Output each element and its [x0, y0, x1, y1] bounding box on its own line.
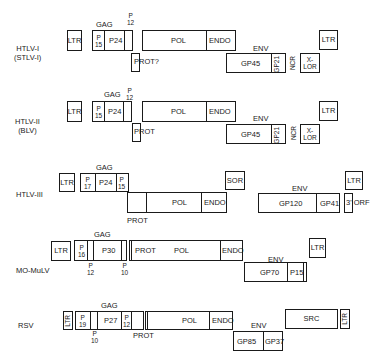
divider: [220, 241, 221, 260]
p10-n: 10: [121, 269, 128, 276]
ltr-3-box: LTR: [340, 309, 350, 329]
divider: [121, 312, 122, 329]
env-label: ENV: [253, 45, 268, 53]
p10-label: P 10: [121, 262, 128, 276]
gag-label: GAG: [94, 231, 111, 239]
divider: [104, 31, 105, 50]
p16-n: 16: [78, 251, 85, 258]
p12-label: P 12: [87, 262, 94, 276]
p12-p: P: [123, 314, 130, 321]
divider: [209, 312, 210, 329]
p19-label: P 19: [79, 314, 86, 328]
ltr-3-box: LTR: [319, 30, 338, 50]
ltr-5-box: LTR: [67, 30, 82, 51]
gag-label: GAG: [104, 91, 121, 99]
divider: [206, 31, 207, 50]
pol-box: POL ENDO: [127, 192, 227, 213]
divider: [97, 312, 98, 329]
gp21-label: GP21: [274, 127, 281, 144]
ncr-label: NCR: [291, 126, 298, 140]
gag-label: GAG: [96, 164, 113, 172]
divider: [90, 312, 91, 329]
divider: [287, 263, 288, 281]
p19-p: P: [79, 314, 86, 321]
p15-label: P 15: [118, 176, 125, 190]
pol-box: POL ENDO: [145, 311, 233, 330]
divider: [95, 174, 96, 191]
gp45-label: GP45: [241, 131, 260, 139]
ltr-5-box: LTR: [63, 311, 73, 330]
ltr-3-box: LTR: [319, 101, 338, 121]
gag-box: P 15 P24: [92, 101, 132, 122]
p16-label: P 16: [78, 244, 85, 258]
gp21-label: GP21: [274, 56, 281, 73]
sor-box: SOR: [225, 171, 245, 190]
ltr-3-label: LTR: [342, 313, 349, 325]
p12-label: P 12: [123, 314, 130, 328]
gag-box: P 19 P27 P 12: [75, 311, 144, 330]
p10-n: 10: [91, 337, 98, 344]
gp120-label: GP120: [279, 200, 302, 208]
endo-label: ENDO: [209, 37, 231, 45]
p19-n: 19: [79, 321, 86, 328]
env-label: ENV: [253, 115, 268, 123]
virus-name-htlv-2: HTLV-II (BLV): [15, 117, 40, 136]
p12-label: P 12: [127, 12, 134, 26]
gag-box: P 17 P24 P 15: [80, 173, 129, 192]
xlor-box: X- LOR: [300, 124, 320, 144]
p30-label: P30: [102, 247, 115, 255]
virus-label: HTLV-I: [14, 44, 41, 53]
p17-n: 17: [84, 183, 91, 190]
divider: [146, 193, 147, 212]
virus-name-htlv-1: HTLV-I (STLV-I): [14, 44, 41, 63]
xlor-a: X-: [303, 56, 316, 63]
divider: [206, 102, 207, 121]
gp45-label: GP45: [241, 60, 260, 68]
divider: [121, 241, 122, 260]
p15-label: P 15: [95, 34, 102, 48]
ltr-5-label: LTR: [65, 315, 72, 327]
divider: [131, 312, 132, 329]
divider: [87, 241, 88, 260]
src-box: SRC: [285, 309, 338, 329]
prot-label: PROT?: [134, 58, 159, 66]
divider: [124, 31, 125, 50]
xlor-label: X- LOR: [303, 127, 316, 141]
p15-label: P 15: [95, 105, 102, 119]
pol-label: POL: [171, 37, 186, 45]
divider: [123, 102, 124, 121]
pol-label: POL: [182, 317, 197, 325]
divider: [316, 194, 317, 212]
gp70-label: GP70: [260, 269, 279, 277]
pol-box: POL ENDO: [142, 101, 236, 122]
p27-label: P27: [104, 317, 117, 325]
pol-label: POL: [171, 108, 186, 116]
p10-p: P: [121, 262, 128, 269]
divider: [131, 241, 132, 260]
p12-n: 12: [87, 269, 94, 276]
env-box: GP85 GP37: [233, 331, 283, 351]
p12-n: 12: [123, 321, 130, 328]
ncr-label: NCR: [290, 56, 297, 70]
p12-p: P: [87, 262, 94, 269]
env-box: GP45 GP21: [226, 53, 286, 73]
divider: [263, 332, 264, 350]
env-box: GP120 GP41: [258, 193, 340, 213]
prot-label: PROT: [127, 217, 148, 225]
xlor-b: LOR: [303, 63, 316, 70]
gag-box: P 16 P30: [74, 240, 127, 261]
p12-p: P: [126, 87, 133, 94]
pol-box: PROT POL ENDO: [129, 240, 243, 261]
ltr-5-box: LTR: [67, 101, 82, 122]
endo-label: ENDO: [204, 199, 226, 207]
p15-n: 15: [118, 183, 125, 190]
p12-n: 12: [127, 19, 134, 26]
divider: [271, 125, 272, 143]
virus-label: HTLV-II: [15, 117, 40, 126]
virus-alt-label: (STLV-I): [14, 53, 41, 62]
pol-label: POL: [172, 199, 187, 207]
endo-label: ENDO: [212, 317, 234, 325]
p15-label: P15: [290, 269, 303, 277]
xlor-a: X-: [303, 127, 316, 134]
divider: [201, 193, 202, 212]
